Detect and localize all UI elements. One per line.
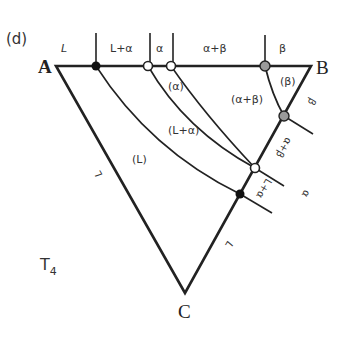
top-label-l-alpha: L+α <box>110 42 133 55</box>
point-alpha-bc <box>251 164 260 173</box>
tick-bc-lalpha <box>240 194 272 213</box>
vertex-c-label: C <box>178 301 191 322</box>
side-label-bc-beta: β <box>306 96 319 107</box>
point-beta-top <box>260 61 270 71</box>
top-label-l: L <box>61 42 67 55</box>
region-label-beta: (β) <box>280 75 296 88</box>
solvus-curve-beta <box>265 66 284 116</box>
temperature-label: T4 <box>39 255 57 278</box>
side-label-bc-alpha-beta: α+β <box>274 136 294 160</box>
top-label-alpha-beta: α+β <box>203 42 227 55</box>
region-label-alpha-beta: (α+β) <box>231 93 263 106</box>
point-beta-bc <box>279 111 289 121</box>
region-label-alpha: (α) <box>168 80 184 93</box>
vertex-a-label: A <box>38 56 52 77</box>
temperature-symbol: T <box>39 255 50 274</box>
point-solvus-top <box>167 62 176 71</box>
ternary-isothermal-section: (d) A B C L L+α α α+β β (L) (L+α) (α) (α… <box>0 0 342 339</box>
side-label-bc-l: L <box>223 240 235 250</box>
side-label-bc-l-alpha: L+α <box>254 177 274 201</box>
panel-label: (d) <box>6 30 27 48</box>
solidus-curve-alpha <box>148 66 255 168</box>
side-label-ac-l: L <box>92 169 104 179</box>
point-solidus-top <box>144 62 153 71</box>
side-label-bc-alpha: α <box>299 188 312 200</box>
region-label-liquid: (L) <box>132 153 147 166</box>
region-label-liquid-alpha: (L+α) <box>168 124 199 137</box>
point-liquidus-top <box>92 62 101 71</box>
point-liquidus-bc <box>236 190 245 199</box>
top-label-beta: β <box>279 42 286 55</box>
vertex-b-label: B <box>316 57 329 78</box>
top-label-alpha: α <box>156 42 163 55</box>
temperature-subscript: 4 <box>50 265 57 278</box>
